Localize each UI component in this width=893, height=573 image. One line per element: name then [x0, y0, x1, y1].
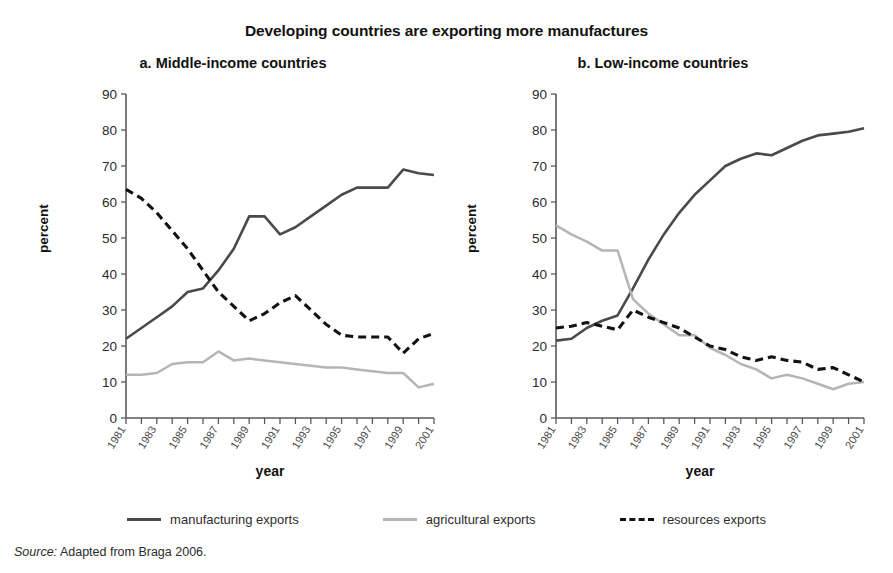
x-tick-label-b-1995: 1995	[750, 424, 773, 451]
y-tick-label-a-30: 30	[102, 303, 117, 318]
x-tick-label-a-1987: 1987	[197, 424, 220, 451]
y-tick-label-b-80: 80	[532, 123, 547, 138]
legend-item-agricultural: agricultural exports	[383, 512, 536, 527]
y-tick-label-a-50: 50	[102, 231, 117, 246]
y-tick-label-b-20: 20	[532, 339, 547, 354]
x-tick-label-b-1987: 1987	[627, 424, 650, 451]
y-tick-label-b-70: 70	[532, 159, 547, 174]
y-tick-label-b-90: 90	[532, 87, 547, 102]
panel-b-y-axis-label: percent	[464, 204, 479, 253]
y-tick-label-a-20: 20	[102, 339, 117, 354]
y-tick-label-a-60: 60	[102, 195, 117, 210]
x-tick-label-a-1981: 1981	[105, 424, 128, 451]
panel-middle-income: a. Middle-income countries percent 01020…	[18, 55, 448, 495]
series-line-a-agricultural	[126, 351, 434, 387]
source-text: Adapted from Braga 2006.	[60, 545, 207, 559]
x-tick-label-b-1981: 1981	[535, 424, 558, 451]
y-tick-label-a-10: 10	[102, 375, 117, 390]
x-tick-label-b-1993: 1993	[719, 424, 742, 451]
legend-swatch-resources-icon	[620, 518, 654, 521]
x-tick-label-b-1999: 1999	[812, 424, 835, 451]
series-line-b-manufacturing	[556, 128, 864, 340]
y-tick-label-b-30: 30	[532, 303, 547, 318]
x-tick-label-b-1989: 1989	[658, 424, 681, 451]
legend-label: agricultural exports	[426, 512, 536, 527]
x-tick-label-a-1985: 1985	[166, 424, 189, 451]
panel-a-y-axis-label: percent	[36, 204, 51, 253]
panel-b-title: b. Low-income countries	[448, 55, 878, 71]
legend-swatch-agricultural-icon	[383, 518, 417, 521]
x-tick-label-b-1983: 1983	[565, 424, 588, 451]
panel-low-income: b. Low-income countries percent 01020304…	[448, 55, 878, 495]
x-tick-label-b-1985: 1985	[596, 424, 619, 451]
panel-a-x-axis-label: year	[104, 463, 436, 479]
figure-title: Developing countries are exporting more …	[0, 22, 893, 40]
panel-b-plot-area: 0102030405060708090198119831985198719891…	[534, 86, 866, 426]
panel-b-x-axis-label: year	[534, 463, 866, 479]
legend-label: resources exports	[663, 512, 766, 527]
x-tick-label-a-1991: 1991	[259, 424, 282, 451]
y-tick-label-a-40: 40	[102, 267, 117, 282]
series-line-b-agricultural	[556, 225, 864, 389]
series-line-a-manufacturing	[126, 170, 434, 339]
series-line-a-resources	[126, 189, 434, 353]
x-tick-label-a-2001: 2001	[413, 424, 436, 451]
y-tick-label-b-40: 40	[532, 267, 547, 282]
figure-container: Developing countries are exporting more …	[0, 0, 893, 573]
source-note: Source: Adapted from Braga 2006.	[14, 545, 207, 559]
source-label: Source:	[14, 545, 57, 559]
panel-a-plot-area: 0102030405060708090198119831985198719891…	[104, 86, 436, 426]
panel-a-title: a. Middle-income countries	[18, 55, 448, 71]
y-tick-label-a-90: 90	[102, 87, 117, 102]
x-tick-label-a-1993: 1993	[289, 424, 312, 451]
y-tick-label-b-50: 50	[532, 231, 547, 246]
x-tick-label-a-1999: 1999	[382, 424, 405, 451]
x-tick-label-a-1995: 1995	[320, 424, 343, 451]
panel-b-svg: 0102030405060708090198119831985198719891…	[534, 86, 866, 426]
legend-label: manufacturing exports	[170, 512, 299, 527]
y-tick-label-a-70: 70	[102, 159, 117, 174]
legend-item-resources: resources exports	[620, 512, 766, 527]
y-tick-label-a-80: 80	[102, 123, 117, 138]
x-tick-label-a-1983: 1983	[135, 424, 158, 451]
legend-swatch-manufacturing-icon	[127, 518, 161, 521]
y-tick-label-a-0: 0	[109, 411, 117, 426]
x-tick-label-b-2001: 2001	[843, 424, 866, 451]
x-tick-label-b-1991: 1991	[689, 424, 712, 451]
panel-a-svg: 0102030405060708090198119831985198719891…	[104, 86, 436, 426]
chart-legend: manufacturing exportsagricultural export…	[0, 512, 893, 527]
y-tick-label-b-60: 60	[532, 195, 547, 210]
x-tick-label-a-1989: 1989	[228, 424, 251, 451]
y-tick-label-b-10: 10	[532, 375, 547, 390]
y-tick-label-b-0: 0	[539, 411, 547, 426]
legend-item-manufacturing: manufacturing exports	[127, 512, 299, 527]
x-tick-label-a-1997: 1997	[351, 424, 374, 451]
x-tick-label-b-1997: 1997	[781, 424, 804, 451]
